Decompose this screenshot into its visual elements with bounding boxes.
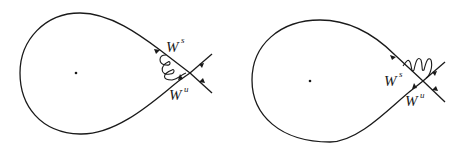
left-label-wu: W [169, 87, 183, 103]
diagram-canvas: W s W u W s W u [0, 0, 466, 152]
right-figure: W s W u [252, 20, 445, 142]
left-label-ws-sup: s [181, 35, 185, 45]
left-label-wu-sup: u [184, 84, 189, 94]
left-stable-extension [190, 73, 212, 93]
left-figure: W s W u [20, 13, 212, 134]
right-loop-curve [252, 20, 423, 142]
right-label-wu-sup: u [420, 90, 425, 100]
left-unstable-extension [190, 54, 212, 73]
left-center-point [75, 72, 78, 75]
right-center-point [309, 80, 312, 83]
right-label-wu: W [405, 93, 419, 109]
right-stable-extension [423, 81, 445, 102]
left-label-ws: W [166, 39, 180, 55]
right-label-ws: W [384, 73, 398, 89]
right-label-ws-sup: s [399, 69, 403, 79]
